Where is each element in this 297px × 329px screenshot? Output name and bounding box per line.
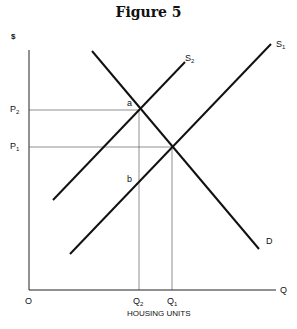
demand-curve [92, 51, 259, 249]
y-axis-label: $ [11, 32, 15, 41]
supply-demand-diagram [0, 0, 297, 329]
x-axis-label: HOUSING UNITS [127, 309, 191, 318]
supply-curve-s1 [70, 44, 271, 254]
s1-label: S1 [276, 40, 285, 52]
point-b-label: b [127, 175, 132, 184]
d-label: D [266, 237, 273, 246]
q1-label: Q1 [167, 297, 177, 309]
p1-label: P1 [10, 142, 19, 154]
p2-label: P2 [10, 105, 19, 117]
q-axis-label: Q [280, 286, 287, 295]
s2-label: S2 [185, 54, 194, 66]
origin-label: O [25, 297, 32, 306]
point-a-label: a [127, 99, 132, 108]
q2-label: Q2 [133, 297, 143, 309]
